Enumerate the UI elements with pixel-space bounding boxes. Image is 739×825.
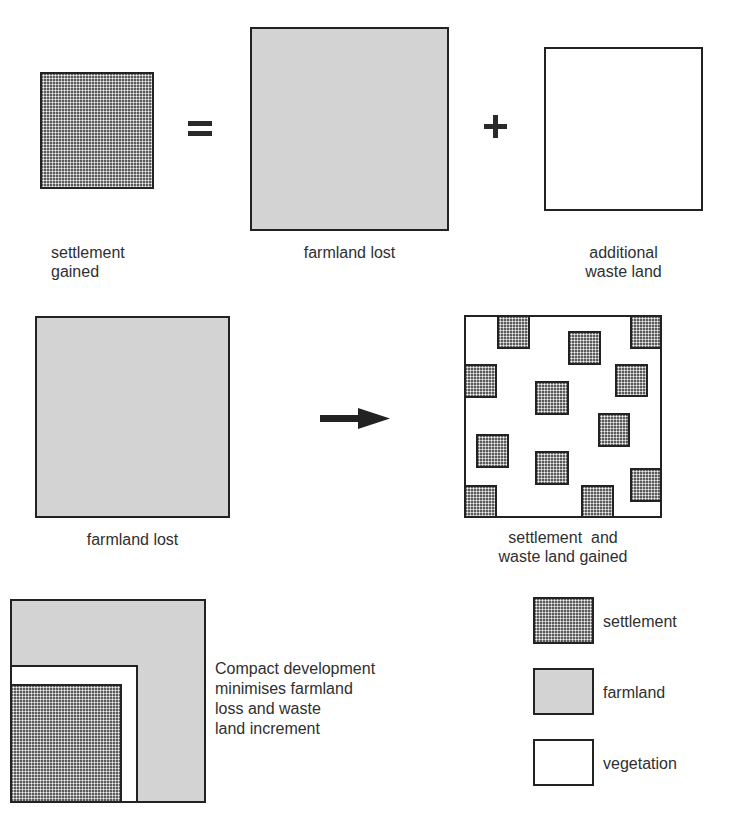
scattered-settlement-patch	[464, 485, 497, 518]
scattered-settlement-patch	[615, 364, 648, 397]
scattered-settlement-patch	[464, 364, 497, 398]
caption-line2: minimises farmland	[215, 679, 375, 699]
legend-settlement-swatch	[533, 597, 594, 644]
scattered-settlement-patch	[581, 485, 614, 518]
scattered-settlement-patch	[630, 315, 662, 349]
farmland-lost-box-2	[35, 316, 230, 518]
additional-waste-line1: additional	[544, 243, 703, 262]
settlement-gained-box	[40, 72, 154, 189]
additional-waste-land-label: additional waste land	[544, 243, 703, 281]
settlement-gained-line2: gained	[51, 262, 125, 281]
farmland-lost-label: farmland lost	[250, 243, 449, 262]
legend-settlement-label: settlement	[603, 612, 677, 631]
scattered-settlement-box	[464, 315, 662, 518]
scattered-settlement-patch	[535, 451, 569, 485]
compact-development-caption: Compact development minimises farmland l…	[215, 659, 375, 739]
caption-line4: land increment	[215, 719, 375, 739]
scattered-settlement-patch	[535, 381, 569, 415]
settlement-gained-line1: settlement	[51, 243, 125, 262]
legend-vegetation-swatch	[533, 739, 594, 786]
legend-farmland-swatch	[533, 668, 594, 715]
caption-line3: loss and waste	[215, 699, 375, 719]
farmland-lost-label-2: farmland lost	[35, 530, 230, 549]
scattered-settlement-patch	[497, 315, 530, 349]
scattered-settlement-patch	[630, 468, 662, 502]
result-line2: waste land gained	[464, 547, 662, 566]
farmland-lost-box	[250, 27, 449, 231]
settlement-waste-gained-label: settlement and waste land gained	[464, 528, 662, 566]
scattered-settlement-patch	[568, 331, 601, 365]
scattered-settlement-patch	[476, 434, 509, 468]
result-line1: settlement and	[464, 528, 662, 547]
legend-vegetation-label: vegetation	[603, 754, 677, 773]
right-arrow-icon	[318, 404, 392, 434]
additional-waste-line2: waste land	[544, 262, 703, 281]
additional-waste-land-box	[544, 47, 703, 211]
scattered-settlement-patch	[598, 413, 630, 447]
caption-line1: Compact development	[215, 659, 375, 679]
legend-farmland-label: farmland	[603, 683, 665, 702]
compact-settlement-box	[10, 684, 122, 803]
settlement-gained-label: settlement gained	[51, 243, 125, 281]
